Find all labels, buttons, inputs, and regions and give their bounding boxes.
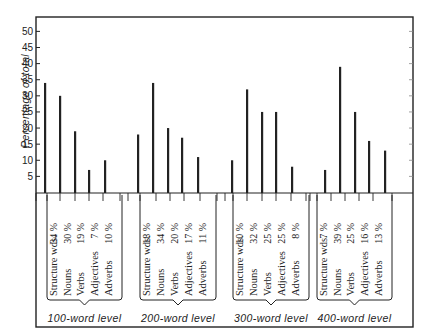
bar bbox=[275, 112, 277, 193]
bar bbox=[44, 83, 46, 193]
percentage-label: 32 % bbox=[248, 223, 259, 244]
category-label: Nouns bbox=[332, 269, 343, 296]
percentage-label: 34 % bbox=[48, 223, 59, 244]
percentage-label: 7 % bbox=[89, 223, 100, 239]
bar bbox=[231, 160, 233, 193]
percentage-label: 25 % bbox=[262, 223, 273, 244]
percentage-label: 8 % bbox=[290, 223, 301, 239]
percentage-label: 25 % bbox=[345, 223, 356, 244]
category-label: Adverbs bbox=[290, 260, 301, 296]
group-label: 200-word level bbox=[140, 312, 215, 324]
category-label: Adjectives bbox=[89, 251, 100, 296]
bar bbox=[291, 167, 293, 193]
bar bbox=[324, 170, 326, 193]
category-label: Adverbs bbox=[103, 260, 114, 296]
group-label: 100-word level bbox=[48, 312, 122, 324]
category-label: Nouns bbox=[62, 269, 73, 296]
percentage-label: 17 % bbox=[183, 223, 194, 244]
bar bbox=[368, 141, 370, 193]
category-label: Verbs bbox=[75, 272, 86, 296]
category-label: Adverbs bbox=[197, 260, 208, 296]
bar bbox=[246, 89, 248, 193]
category-label: Adverbs bbox=[373, 260, 384, 296]
bar bbox=[152, 83, 154, 193]
y-tick-label: 5 bbox=[27, 171, 33, 182]
percentage-label: 7 % bbox=[318, 223, 329, 239]
bar bbox=[104, 160, 106, 193]
bar bbox=[74, 131, 76, 193]
group-label: 400-word level bbox=[318, 312, 392, 324]
category-label: Adjectives bbox=[359, 251, 370, 296]
bar bbox=[59, 96, 61, 193]
bar bbox=[181, 138, 183, 193]
percentage-label: 25 % bbox=[276, 223, 287, 244]
bar bbox=[354, 112, 356, 193]
bar bbox=[384, 151, 386, 193]
bar bbox=[197, 157, 199, 193]
y-axis-label: Percentage of total bbox=[19, 46, 31, 156]
percentage-label: 10 % bbox=[103, 223, 114, 244]
bar bbox=[137, 135, 139, 194]
category-label: Verbs bbox=[169, 272, 180, 296]
y-tick-label: 10 bbox=[22, 155, 34, 166]
percentage-label: 13 % bbox=[373, 223, 384, 244]
percentage-label: 19 % bbox=[75, 223, 86, 244]
bar bbox=[339, 67, 341, 193]
category-label: Verbs bbox=[262, 272, 273, 296]
bar bbox=[88, 170, 90, 193]
category-label: Structure wds. bbox=[318, 235, 329, 296]
category-label: Nouns bbox=[248, 269, 259, 296]
y-tick-label: 50 bbox=[22, 26, 34, 37]
percentage-label: 10 % bbox=[234, 223, 245, 244]
percentage-label: 16 % bbox=[359, 223, 370, 244]
percentage-label: 18 % bbox=[141, 223, 152, 244]
percentage-label: 11 % bbox=[197, 223, 208, 243]
category-label: Adjectives bbox=[183, 251, 194, 296]
bar-chart: 5101520253035404550Structure wds.34 %Nou… bbox=[0, 0, 422, 335]
category-label: Nouns bbox=[155, 269, 166, 296]
category-label: Verbs bbox=[345, 272, 356, 296]
percentage-label: 30 % bbox=[62, 223, 73, 244]
percentage-label: 34 % bbox=[155, 223, 166, 244]
group-label: 300-word level bbox=[234, 312, 308, 324]
percentage-label: 20 % bbox=[169, 223, 180, 244]
bar bbox=[261, 112, 263, 193]
bar bbox=[167, 128, 169, 193]
percentage-label: 39 % bbox=[332, 223, 343, 244]
category-label: Adjectives bbox=[276, 251, 287, 296]
